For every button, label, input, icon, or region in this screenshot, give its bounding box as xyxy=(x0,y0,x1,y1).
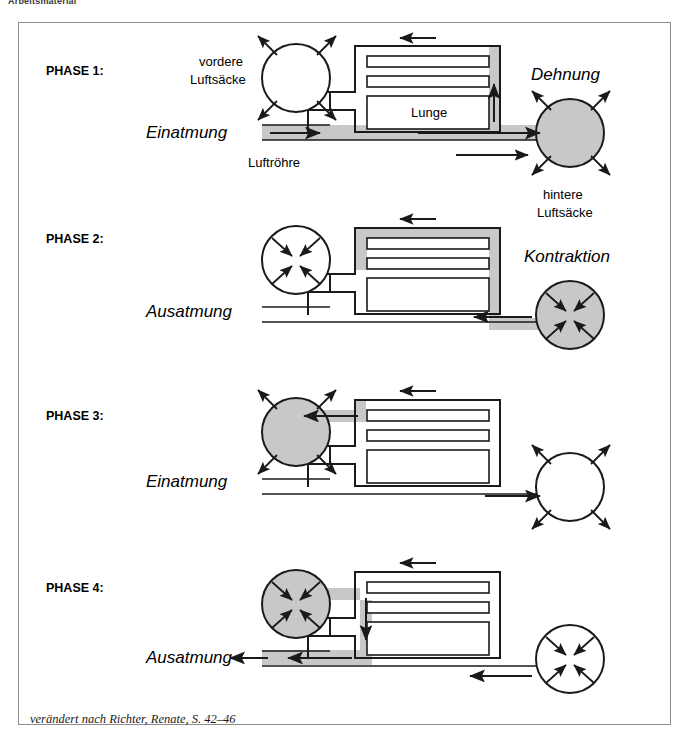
worksheet-page: Arbeitsmaterial PHASE 1: Einatmung vorde… xyxy=(0,0,692,753)
worksheet-header-label: Arbeitsmaterial xyxy=(8,0,77,6)
source-caption: verändert nach Richter, Renate, S. 42–46 xyxy=(30,712,236,727)
diagram-frame xyxy=(18,22,671,725)
